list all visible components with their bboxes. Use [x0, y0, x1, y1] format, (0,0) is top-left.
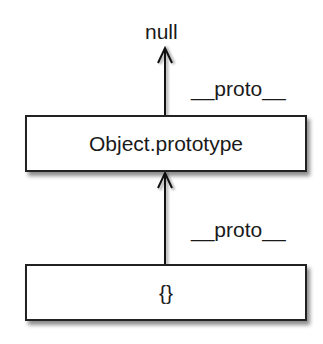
empty-object-label: {} — [159, 281, 173, 305]
object-prototype-node: Object.prototype — [25, 115, 307, 172]
null-label: null — [145, 21, 178, 42]
proto-arrow-top — [158, 48, 172, 115]
proto-edge-label-top: __proto__ — [191, 78, 286, 99]
object-prototype-label: Object.prototype — [89, 132, 243, 156]
empty-object-node: {} — [25, 264, 307, 321]
proto-edge-label-bottom: __proto__ — [191, 219, 286, 240]
